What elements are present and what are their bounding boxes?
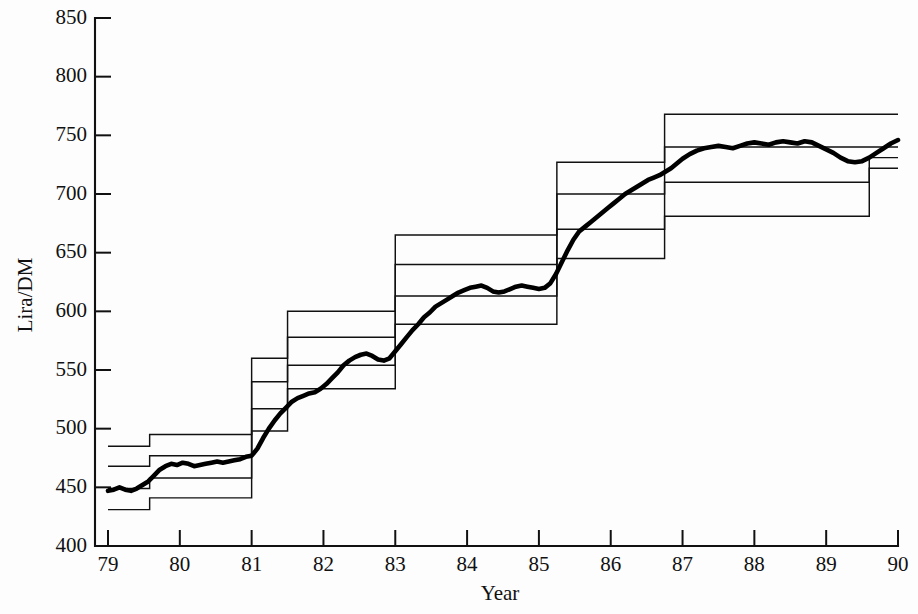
x-axis-tick-label: 89	[816, 552, 837, 576]
chart-svg: 400450500550600650700750800850 798081828…	[0, 0, 918, 614]
x-axis-tick-label: 81	[241, 552, 262, 576]
series-narrow-band-upper	[108, 147, 898, 466]
x-axis-tick-label: 83	[385, 552, 406, 576]
y-axis-ticks	[95, 18, 111, 487]
axis-lines	[95, 18, 898, 546]
x-axis-tick-label: 87	[672, 552, 693, 576]
y-axis-tick-label: 850	[56, 5, 88, 29]
series-wide-band-lower	[108, 158, 898, 510]
series-lira-dm-exchange-rate	[108, 140, 898, 491]
x-axis-title: Year	[481, 581, 520, 605]
x-axis-tick-labels: 798081828384858687888990	[98, 552, 909, 576]
x-axis-tick-label: 84	[457, 552, 479, 576]
x-axis-tick-label: 85	[528, 552, 549, 576]
y-axis-tick-label: 400	[56, 533, 88, 557]
exchange-rate-chart: 400450500550600650700750800850 798081828…	[0, 0, 918, 614]
y-axis-tick-label: 450	[56, 474, 88, 498]
y-axis-tick-label: 750	[56, 122, 88, 146]
y-axis-tick-label: 800	[56, 63, 88, 87]
x-axis-tick-label: 90	[888, 552, 909, 576]
y-axis-title: Lira/DM	[13, 257, 37, 332]
x-axis-tick-label: 82	[313, 552, 334, 576]
x-axis-ticks	[108, 530, 898, 546]
chart-axes	[95, 18, 898, 546]
x-axis-tick-label: 86	[600, 552, 621, 576]
series-wide-band-upper	[108, 114, 898, 446]
x-axis-tick-label: 88	[744, 552, 765, 576]
y-axis-tick-label: 600	[56, 298, 88, 322]
y-axis-tick-label: 700	[56, 181, 88, 205]
y-axis-tick-label: 500	[56, 415, 88, 439]
y-axis-tick-label: 650	[56, 239, 88, 263]
y-axis-tick-labels: 400450500550600650700750800850	[56, 5, 88, 557]
x-axis-tick-label: 79	[98, 552, 119, 576]
x-axis-tick-label: 80	[169, 552, 190, 576]
chart-series	[108, 114, 898, 509]
y-axis-tick-label: 550	[56, 357, 88, 381]
